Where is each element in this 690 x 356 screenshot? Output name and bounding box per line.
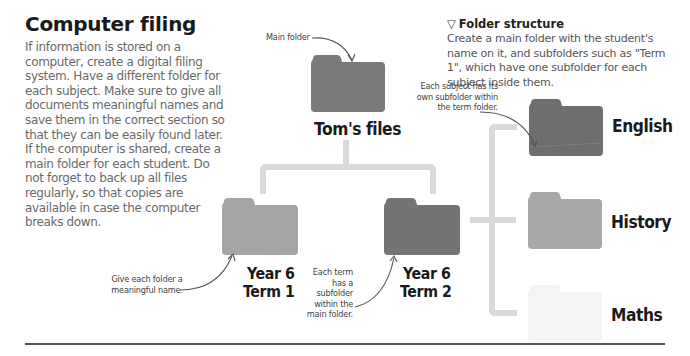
bottom-rule	[25, 343, 665, 345]
annotation-arrows	[0, 0, 690, 356]
arrow-english-icon	[480, 112, 535, 145]
arrow-term1-icon	[180, 256, 232, 290]
arrow-main-folder-icon	[312, 38, 352, 60]
arrow-term2-icon	[355, 258, 394, 307]
